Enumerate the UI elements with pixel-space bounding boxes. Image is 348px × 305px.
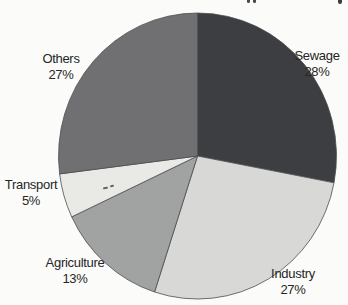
slice-name: Others xyxy=(42,51,79,67)
slice-label-others: Others 27% xyxy=(42,51,79,82)
slice-percent: 27% xyxy=(271,282,315,298)
slice-label-sewage: Sewage 28% xyxy=(294,48,339,79)
slice-label-industry: Industry 27% xyxy=(271,266,315,297)
slice-label-transport: Transport 5% xyxy=(5,177,57,208)
slice-percent: 27% xyxy=(42,67,79,83)
slice-name: Transport xyxy=(5,177,57,193)
pie-slice-others xyxy=(59,13,198,174)
pie-slice-sewage xyxy=(198,13,337,183)
slice-percent: 28% xyxy=(294,64,339,80)
slice-label-agriculture: Agriculture 13% xyxy=(46,255,105,286)
slice-name: Sewage xyxy=(294,48,339,64)
slice-name: Industry xyxy=(271,266,315,282)
slice-percent: 5% xyxy=(5,193,57,209)
slice-percent: 13% xyxy=(46,271,105,287)
slice-name: Agriculture xyxy=(46,255,105,271)
pie-chart-figure: Others 27% Sewage 28% Transport 5% Agric… xyxy=(0,0,348,305)
